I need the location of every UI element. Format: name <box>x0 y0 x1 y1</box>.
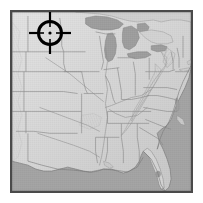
relief-map-canvas[interactable] <box>12 12 191 191</box>
map-frame[interactable] <box>10 10 193 193</box>
lake-ontario <box>151 45 167 52</box>
map-screenshot <box>0 0 203 203</box>
